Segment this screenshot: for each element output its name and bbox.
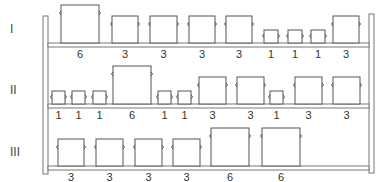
shelf-3: III333366	[10, 128, 369, 182]
container-value: 3	[160, 48, 166, 60]
container-box	[333, 77, 360, 104]
container-box	[61, 5, 99, 43]
container-3: 3	[236, 77, 266, 121]
container-value: 6	[278, 171, 284, 182]
container-3: 3	[111, 16, 140, 60]
container-value: 3	[122, 48, 128, 60]
container-box	[199, 77, 226, 104]
container-value: 1	[268, 48, 274, 60]
container-value: 3	[236, 48, 242, 60]
container-3: 3	[332, 77, 362, 121]
container-box	[52, 91, 65, 104]
container-box	[311, 30, 325, 43]
container-value: 6	[77, 48, 83, 60]
container-box	[150, 16, 177, 43]
shelf-1: I633331113	[10, 5, 369, 60]
container-3: 3	[225, 16, 254, 60]
container-3: 3	[188, 16, 217, 60]
container-3: 3	[134, 139, 164, 182]
container-box	[113, 66, 151, 104]
container-value: 6	[129, 109, 135, 121]
container-box	[189, 16, 215, 43]
container-value: 3	[68, 171, 74, 182]
shelf-board	[48, 166, 369, 170]
container-value: 1	[273, 109, 279, 121]
container-3: 3	[294, 77, 324, 121]
container-box	[135, 139, 162, 166]
container-value: 1	[55, 109, 61, 121]
container-box	[178, 91, 191, 104]
container-3: 3	[95, 139, 125, 182]
shelf-board	[48, 43, 369, 47]
container-value: 1	[315, 48, 321, 60]
container-3: 3	[149, 16, 179, 60]
container-value: 6	[227, 171, 233, 182]
container-value: 3	[247, 109, 253, 121]
shelf-board	[48, 104, 369, 108]
container-value: 3	[209, 109, 215, 121]
left-upright	[43, 16, 48, 174]
container-value: 3	[343, 109, 349, 121]
container-box	[288, 30, 302, 43]
container-3: 3	[172, 139, 202, 182]
container-6: 6	[60, 5, 101, 60]
container-3: 3	[198, 77, 228, 121]
container-box	[96, 139, 123, 166]
container-3: 3	[57, 139, 86, 182]
container-box	[270, 91, 283, 104]
container-6: 6	[210, 128, 251, 182]
container-box	[58, 139, 84, 166]
container-box	[226, 16, 252, 43]
shelf-label: II	[10, 83, 17, 97]
container-6: 6	[261, 128, 302, 182]
shelf-2: II11161133133	[10, 66, 369, 121]
container-value: 1	[96, 109, 102, 121]
container-value: 3	[199, 48, 205, 60]
container-box	[211, 128, 249, 166]
container-box	[112, 16, 138, 43]
shelf-diagram: I633331113II11161133133III333366	[0, 0, 381, 182]
container-value: 1	[292, 48, 298, 60]
container-value: 3	[106, 171, 112, 182]
container-box	[173, 139, 200, 166]
container-value: 1	[75, 109, 81, 121]
container-value: 1	[161, 109, 167, 121]
container-value: 3	[145, 171, 151, 182]
container-box	[295, 77, 322, 104]
shelf-label: I	[10, 22, 13, 36]
container-box	[237, 77, 264, 104]
right-upright	[369, 14, 374, 173]
container-3: 3	[332, 16, 361, 60]
container-value: 3	[343, 48, 349, 60]
container-value: 3	[305, 109, 311, 121]
container-value: 3	[183, 171, 189, 182]
container-box	[158, 91, 171, 104]
container-value: 1	[181, 109, 187, 121]
container-6: 6	[112, 66, 153, 121]
container-box	[264, 30, 278, 43]
container-box	[93, 91, 106, 104]
shelf-label: III	[10, 145, 20, 159]
container-box	[72, 91, 85, 104]
container-box	[262, 128, 300, 166]
container-box	[333, 16, 359, 43]
